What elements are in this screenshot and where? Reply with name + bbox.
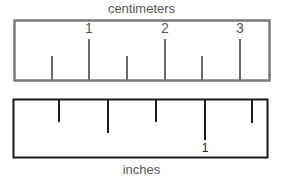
cm-label-2: 2 bbox=[161, 20, 169, 36]
centimeter-ticks bbox=[52, 39, 240, 80]
inch-label-1: 1 bbox=[202, 141, 209, 155]
inches-title: inches bbox=[0, 162, 283, 177]
inch-ticks bbox=[59, 100, 252, 140]
inch-ruler-frame bbox=[14, 100, 268, 158]
cm-label-3: 3 bbox=[236, 20, 244, 36]
cm-label-1: 1 bbox=[85, 20, 93, 36]
